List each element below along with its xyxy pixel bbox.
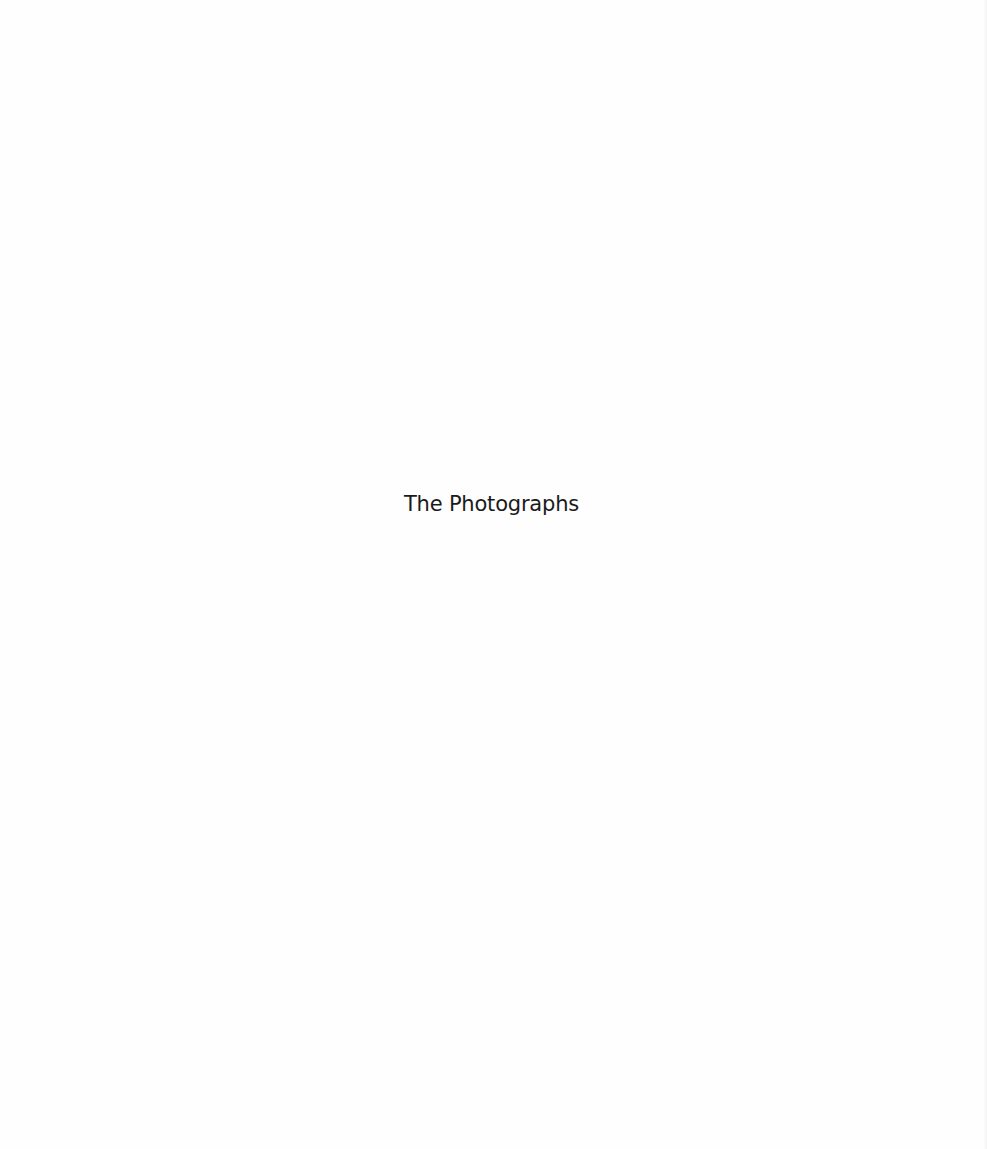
document-page: The Photographs (0, 0, 987, 1149)
section-title: The Photographs (0, 492, 983, 516)
